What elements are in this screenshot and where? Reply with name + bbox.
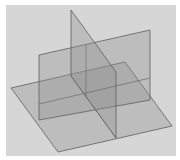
diagram-canvas (0, 0, 180, 160)
planes-diagram (0, 0, 180, 160)
